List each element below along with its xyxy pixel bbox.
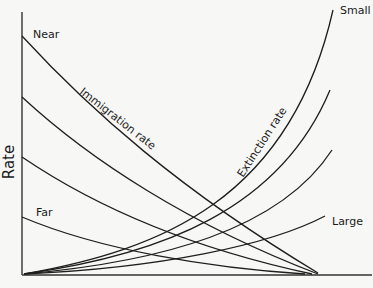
small-label: Small <box>340 4 371 17</box>
y-axis-label: Rate <box>0 145 18 179</box>
large-label: Large <box>332 215 363 228</box>
near-label: Near <box>33 28 60 41</box>
immigration-curve-3 <box>22 157 312 274</box>
far-label: Far <box>36 206 53 219</box>
immigration-rate-label: Immigration rate <box>77 85 158 153</box>
extinction-rate-label: Extinction rate <box>235 105 290 180</box>
extinction-curve-3 <box>24 150 332 274</box>
island-biogeography-diagram: Rate Near Far Small Large Immigration ra… <box>0 0 373 288</box>
